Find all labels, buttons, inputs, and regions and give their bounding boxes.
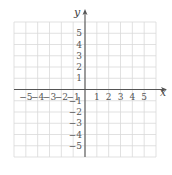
x-tick-label: 5 — [141, 92, 147, 102]
y-tick-label: −3 — [69, 118, 83, 128]
y-tick-label: −4 — [69, 130, 83, 140]
x-tick-label: 1 — [94, 92, 100, 102]
x-tick-label: 3 — [118, 92, 124, 102]
y-tick-label: 5 — [76, 28, 82, 38]
y-tick-label: 4 — [76, 40, 82, 50]
y-tick-label: 1 — [76, 73, 82, 83]
x-tick-label: 4 — [129, 92, 135, 102]
y-tick-label: 2 — [76, 62, 82, 72]
y-tick-label: −5 — [69, 141, 83, 151]
x-axis-label: x — [160, 86, 167, 99]
x-tick-label: 2 — [106, 92, 112, 102]
y-tick-label: −2 — [69, 107, 82, 117]
y-tick-label: −1 — [69, 96, 82, 106]
y-tick-label: 3 — [76, 51, 82, 61]
y-axis-label: y — [73, 6, 81, 19]
coordinate-grid: −5−4−3−2−11234554321−1−2−3−4−5 x y — [0, 0, 172, 175]
